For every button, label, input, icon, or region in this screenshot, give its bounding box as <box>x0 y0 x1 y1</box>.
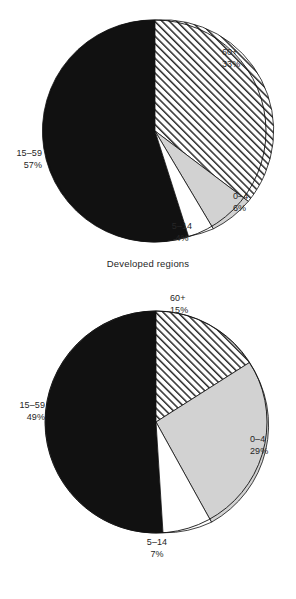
slice-label-15-59: 15–59 57% <box>0 148 42 171</box>
slice-label-15-59-name: 15–59 <box>0 148 42 160</box>
slice-label-5-14: 5–14 7% <box>135 537 179 560</box>
slice-label-15-59-value: 57% <box>0 160 42 172</box>
slice-label-5-14-value: 4% <box>160 233 204 245</box>
slice-label-15-59: 15–59 49% <box>0 400 45 423</box>
pie-svg-developed-regions <box>0 0 296 290</box>
slice-label-60-plus: 60+ 33% <box>222 47 240 70</box>
slice-label-0-4-value: 29% <box>250 446 268 458</box>
slice-label-60-plus-name: 60+ <box>222 47 240 59</box>
population-age-pie-figure: 60+ 33% 0–4 6% 5–14 4% 15–59 57% Develop… <box>0 0 296 599</box>
slice-label-60-plus-value: 15% <box>170 305 188 317</box>
slice-label-15-59-name: 15–59 <box>0 400 45 412</box>
slice-label-5-14: 5–14 4% <box>160 221 204 244</box>
pie-chart-developed-regions: 60+ 33% 0–4 6% 5–14 4% 15–59 57% Develop… <box>0 0 296 290</box>
slice-label-0-4: 0–4 6% <box>233 191 248 214</box>
slice-label-5-14-value: 7% <box>135 549 179 561</box>
pie-chart-world: 60+ 15% 0–4 29% 5–14 7% 15–59 49% World <box>0 290 296 599</box>
pie-slices-world <box>45 311 269 533</box>
pie-caption-developed-regions: Developed regions <box>0 258 296 269</box>
slice-label-60-plus: 60+ 15% <box>170 293 188 316</box>
slice-label-5-14-name: 5–14 <box>135 537 179 549</box>
slice-label-0-4-name: 0–4 <box>250 434 268 446</box>
slice-label-5-14-name: 5–14 <box>160 221 204 233</box>
slice-label-0-4: 0–4 29% <box>250 434 268 457</box>
slice-label-15-59-value: 49% <box>0 412 45 424</box>
slice-label-0-4-name: 0–4 <box>233 191 248 203</box>
slice-label-60-plus-value: 33% <box>222 59 240 71</box>
slice-label-0-4-value: 6% <box>233 203 248 215</box>
pie-slice-15-59 <box>45 311 163 533</box>
slice-label-60-plus-name: 60+ <box>170 293 188 305</box>
